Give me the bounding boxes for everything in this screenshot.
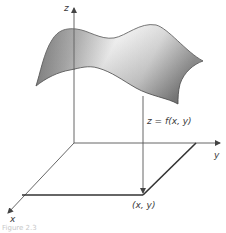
point-label: (x, y) — [132, 200, 155, 210]
surface-plot-diagram: z y x z = f(x, y) (x, y) — [0, 0, 226, 233]
surface-z-f-xy — [36, 25, 203, 104]
x-axis — [8, 143, 74, 213]
surface-equation-label: z = f(x, y) — [146, 116, 192, 126]
y-axis-label: y — [213, 150, 220, 160]
domain-rectangle — [22, 143, 196, 195]
figure-caption: Figure 2.3 — [2, 224, 37, 232]
x-axis-label: x — [9, 214, 16, 224]
z-axis-label: z — [63, 3, 69, 13]
